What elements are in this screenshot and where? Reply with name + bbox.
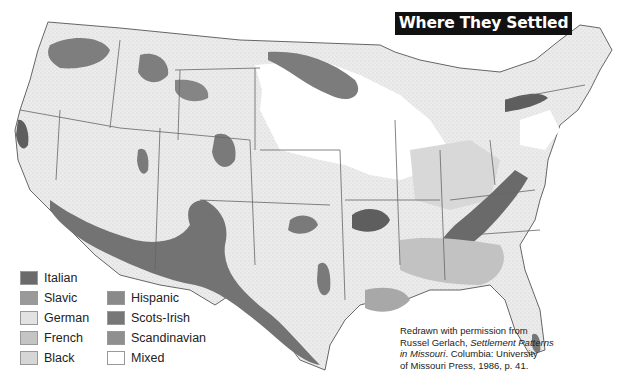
- citation-line: in Missouri. Columbia: University: [400, 348, 630, 360]
- legend-swatch-black: [20, 351, 38, 365]
- legend-item-hispanic: Hispanic: [107, 290, 179, 306]
- legend-label: Scots-Irish: [131, 311, 190, 325]
- citation-line: of Missouri Press, 1986, p. 41.: [400, 360, 630, 372]
- legend-swatch-mixed: [107, 351, 125, 365]
- legend-swatch-hispanic: [107, 291, 125, 305]
- legend-swatch-french: [20, 331, 38, 345]
- legend-label: Mixed: [131, 351, 164, 365]
- citation-line: Russel Gerlach, Settlement Patterns: [400, 337, 630, 349]
- legend-item-scandinavian: Scandinavian: [107, 330, 206, 346]
- legend-label: Italian: [44, 271, 77, 285]
- citation-publisher: . Columbia: University: [445, 348, 537, 359]
- legend-item-black: Black: [20, 350, 75, 366]
- citation-book-title-cont: in Missouri: [400, 348, 445, 359]
- legend-swatch-scandinavian: [107, 331, 125, 345]
- legend-item-scots-irish: Scots-Irish: [107, 310, 190, 326]
- legend-item-french: French: [20, 330, 83, 346]
- legend-label: Hispanic: [131, 291, 179, 305]
- legend-item-italian: Italian: [20, 270, 77, 286]
- legend-swatch-italian: [20, 271, 38, 285]
- legend-label: German: [44, 311, 89, 325]
- citation-book-title: Settlement Patterns: [470, 337, 553, 348]
- legend-swatch-german: [20, 311, 38, 325]
- citation-author: Russel Gerlach,: [400, 337, 470, 348]
- legend-label: Scandinavian: [131, 331, 206, 345]
- legend-swatch-scots-irish: [107, 311, 125, 325]
- legend-swatch-slavic: [20, 291, 38, 305]
- legend-item-german: German: [20, 310, 89, 326]
- legend-item-slavic: Slavic: [20, 290, 77, 306]
- citation-line: Redrawn with permission from: [400, 325, 630, 337]
- settlement-map: Where They Settled Italian Slavic German…: [0, 0, 635, 383]
- source-citation: Redrawn with permission from Russel Gerl…: [400, 325, 630, 371]
- legend-item-mixed: Mixed: [107, 350, 164, 366]
- legend-label: French: [44, 331, 83, 345]
- legend-label: Slavic: [44, 291, 77, 305]
- map-title: Where They Settled: [395, 12, 572, 35]
- legend-label: Black: [44, 351, 75, 365]
